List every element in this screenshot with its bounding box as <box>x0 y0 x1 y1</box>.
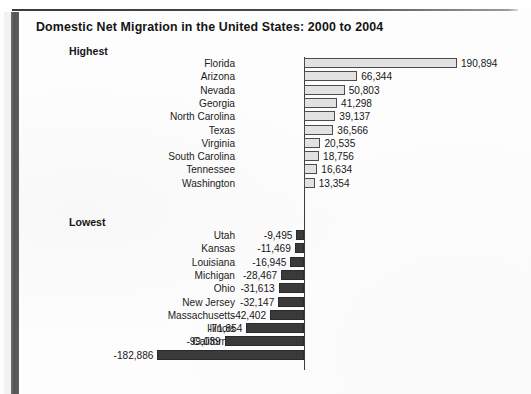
chart-row: Arizona66,344 <box>0 70 531 83</box>
state-label: Michigan <box>30 269 235 282</box>
bar-value-label: -182,886 <box>114 349 154 362</box>
bar-value-label: 41,298 <box>341 97 372 110</box>
chart-row: Louisiana-16,945 <box>0 256 531 269</box>
bar-value-label: -42,402 <box>232 309 266 322</box>
state-label: Illinois <box>30 322 235 335</box>
bar-chart-plot: Florida190,894Arizona66,344Nevada50,803G… <box>0 0 531 394</box>
bar-positive <box>304 138 320 148</box>
chart-row: Nevada50,803 <box>0 84 531 97</box>
bar-negative <box>290 257 304 267</box>
state-label: South Carolina <box>30 150 235 163</box>
bar-value-label: 16,634 <box>321 163 352 176</box>
chart-row: Texas36,566 <box>0 124 531 137</box>
state-label: Virginia <box>30 137 235 150</box>
state-label: Massachusetts <box>30 309 235 322</box>
bar-positive <box>304 71 357 81</box>
bar-value-label: 66,344 <box>361 70 392 83</box>
state-label: Georgia <box>30 97 235 110</box>
bar-negative <box>278 297 304 307</box>
state-label: Washington <box>30 177 235 190</box>
bar-value-label: -16,945 <box>252 256 286 269</box>
chart-row: New York-182,886 <box>0 349 531 362</box>
bar-negative <box>246 323 304 333</box>
chart-row: Florida190,894 <box>0 57 531 70</box>
bar-value-label: 190,894 <box>461 57 498 70</box>
bar-value-label: 50,803 <box>349 84 380 97</box>
bar-positive <box>304 125 333 135</box>
state-label: Arizona <box>30 70 235 83</box>
state-label: Texas <box>30 124 235 137</box>
state-label: North Carolina <box>30 110 235 123</box>
bar-negative <box>295 243 304 253</box>
bar-value-label: -11,469 <box>257 242 290 255</box>
bar-value-label: 13,354 <box>319 177 350 190</box>
state-label: Nevada <box>30 84 235 97</box>
bar-value-label: -71,854 <box>208 322 242 335</box>
bar-positive <box>304 164 317 174</box>
bar-positive <box>304 85 345 95</box>
state-label: Florida <box>30 57 235 70</box>
bar-value-label: 36,566 <box>337 124 368 137</box>
bar-positive <box>304 178 315 188</box>
chart-row: Virginia20,535 <box>0 137 531 150</box>
chart-row: Washington13,354 <box>0 177 531 190</box>
bar-value-label: -28,467 <box>243 269 277 282</box>
bar-value-label: -99,039 <box>186 335 220 348</box>
bar-value-label: 20,535 <box>324 137 355 150</box>
bar-negative <box>296 230 304 240</box>
state-label: Tennessee <box>30 163 235 176</box>
chart-row: Massachusetts-42,402 <box>0 309 531 322</box>
chart-row: Illinois-71,854 <box>0 322 531 335</box>
state-label: New Jersey <box>30 296 235 309</box>
state-label: Utah <box>30 229 235 242</box>
chart-page: Domestic Net Migration in the United Sta… <box>0 0 531 394</box>
chart-row: New Jersey-32,147 <box>0 296 531 309</box>
chart-row: South Carolina18,756 <box>0 150 531 163</box>
state-label: Louisiana <box>30 256 235 269</box>
bar-negative <box>157 350 304 360</box>
chart-row: North Carolina39,137 <box>0 110 531 123</box>
bar-positive <box>304 151 319 161</box>
bar-positive <box>304 111 335 121</box>
chart-row: Michigan-28,467 <box>0 269 531 282</box>
chart-row: Georgia41,298 <box>0 97 531 110</box>
bar-value-label: -9,495 <box>264 229 293 242</box>
bar-value-label: 18,756 <box>323 150 354 163</box>
bar-value-label: -31,613 <box>240 282 274 295</box>
bar-negative <box>270 310 304 320</box>
bar-negative <box>281 270 304 280</box>
bar-positive <box>304 98 337 108</box>
bar-negative <box>279 283 304 293</box>
chart-row: Tennessee16,634 <box>0 163 531 176</box>
chart-row: Ohio-31,613 <box>0 282 531 295</box>
chart-row: Utah-9,495 <box>0 229 531 242</box>
bar-value-label: -32,147 <box>240 296 274 309</box>
chart-row: California-99,039 <box>0 335 531 348</box>
bar-value-label: 39,137 <box>339 110 370 123</box>
state-label: Kansas <box>30 242 235 255</box>
bar-positive <box>304 58 457 68</box>
state-label: Ohio <box>30 282 235 295</box>
chart-row: Kansas-11,469 <box>0 242 531 255</box>
bar-negative <box>225 336 304 346</box>
